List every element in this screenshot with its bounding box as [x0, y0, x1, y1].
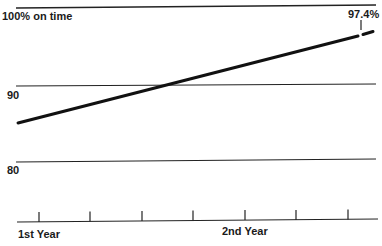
y-label-100: 100% on time: [2, 10, 72, 22]
line-chart: [0, 0, 382, 246]
x-axis: [17, 219, 378, 222]
y-label-90: 90: [7, 89, 19, 101]
end-value-annotation: 97.4%: [348, 8, 379, 20]
y-label-80: 80: [7, 164, 19, 176]
gridline-90: [16, 84, 376, 86]
data-line-dash: [363, 32, 373, 35]
cutoff-title-text: [0, 0, 3, 5]
gridline-100: [16, 5, 376, 8]
gridline-80: [16, 159, 376, 162]
data-line-solid: [18, 36, 358, 123]
x-label-2nd-year: 2nd Year: [222, 225, 268, 237]
x-label-1st-year: 1st Year: [18, 228, 60, 240]
